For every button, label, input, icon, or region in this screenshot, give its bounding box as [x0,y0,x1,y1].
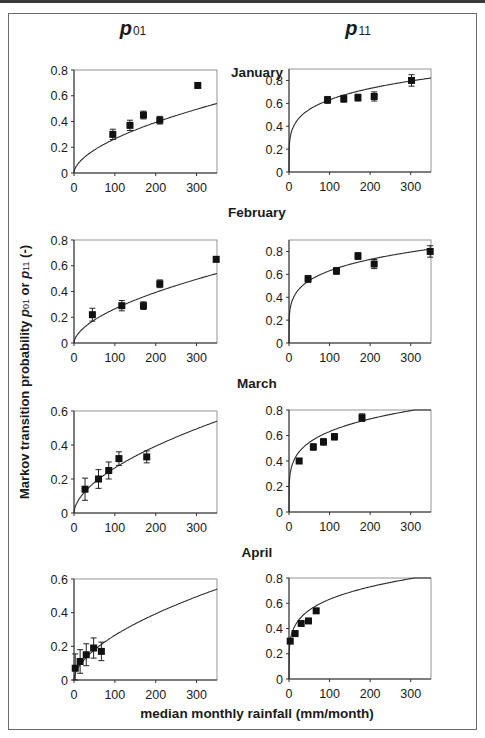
data-point [90,645,97,652]
x-tick-label: 100 [104,688,125,702]
y-tick-label: 0.6 [266,597,283,611]
plot-area [289,69,431,172]
y-tick-label: 0.4 [266,622,283,636]
y-tick-label: 0.2 [266,314,283,328]
x-tick-label: 200 [360,351,381,365]
y-tick-label: 0.4 [51,115,68,129]
x-tick-label: 100 [319,520,340,534]
data-point [98,648,105,655]
x-tick-label: 200 [145,521,166,535]
column-title-p11: p11 [344,17,371,39]
x-tick-label: 0 [286,687,293,701]
fitted-curve [289,578,431,679]
plot-area [74,240,217,343]
fitted-curve [289,249,431,343]
plot-january-p01: 00.20.40.60.80100200300 [51,64,217,196]
y-tick-label: 0.8 [51,64,68,78]
x-tick-label: 0 [286,180,293,194]
x-tick-label: 200 [145,688,166,702]
data-point [296,458,303,465]
x-tick-label: 100 [319,180,340,194]
data-point [156,117,163,124]
data-point [371,93,378,100]
x-tick-label: 200 [145,181,166,195]
x-tick-label: 100 [104,181,125,195]
x-tick-label: 300 [400,180,421,194]
plot-area [74,579,217,680]
y-tick-label: 0.2 [266,480,283,494]
x-tick-label: 200 [360,180,381,194]
y-tick-label: 0.4 [51,439,68,453]
data-point [298,620,305,627]
fitted-curve [289,78,431,172]
data-point [72,665,79,672]
data-point [354,94,361,101]
x-tick-label: 300 [186,521,207,535]
data-point [140,302,147,309]
x-tick-label: 300 [186,181,207,195]
x-tick-label: 0 [286,351,293,365]
data-point [140,112,147,119]
x-tick-label: 300 [400,520,421,534]
y-tick-label: 0.6 [266,97,283,111]
data-point [126,122,133,129]
fitted-curve [289,410,431,512]
y-tick-label: 0.4 [266,120,283,134]
data-point [320,438,327,445]
y-tick-label: 0 [61,507,68,521]
y-tick-label: 0 [276,673,283,687]
data-point [331,433,338,440]
plot-january-p11: 00.20.40.60.80100200300 [266,69,431,194]
y-tick-label: 0.2 [51,473,68,487]
x-tick-label: 300 [186,351,207,365]
figure-canvas: p01 p11 Markov transition probability p0… [0,0,485,738]
data-point [324,96,331,103]
x-tick-label: 300 [400,687,421,701]
y-tick-label: 0.8 [266,245,283,259]
data-point [143,453,150,460]
x-tick-label: 100 [104,351,125,365]
x-tick-label: 100 [319,351,340,365]
month-title-march: March [237,376,277,391]
column-title-p01: p01 [119,17,147,39]
y-tick-label: 0.6 [51,89,68,103]
data-point [118,302,125,309]
plot-area [74,411,217,513]
data-point [313,607,320,614]
x-tick-label: 300 [400,351,421,365]
data-point [359,414,366,421]
x-tick-label: 0 [71,181,78,195]
x-tick-label: 100 [104,521,125,535]
panels-group: January00.20.40.60.8010020030000.20.40.6… [51,64,434,703]
y-tick-label: 0.2 [51,141,68,155]
y-tick-label: 0.6 [266,268,283,282]
y-tick-label: 0.8 [266,404,283,418]
data-point [427,248,434,255]
data-point [115,455,122,462]
data-point [408,77,415,84]
y-tick-label: 0.6 [51,405,68,419]
y-tick-label: 0 [61,167,68,181]
data-point [333,267,340,274]
data-point [305,275,312,282]
y-tick-label: 0.2 [266,647,283,661]
data-point [109,131,116,138]
y-tick-label: 0.8 [266,572,283,586]
y-tick-label: 0.4 [51,285,68,299]
y-tick-label: 0.4 [266,455,283,469]
x-tick-label: 200 [360,520,381,534]
plot-march-p01: 00.20.40.60100200300 [51,405,217,536]
y-axis-label: Markov transition probability p01 or p11… [17,245,32,499]
y-tick-label: 0.4 [266,291,283,305]
y-tick-label: 0.6 [266,429,283,443]
y-tick-label: 0.8 [51,234,68,248]
fitted-curve [74,589,217,680]
data-point [371,261,378,268]
y-tick-label: 0 [276,337,283,351]
data-point [82,486,89,493]
data-point [105,467,112,474]
y-tick-label: 0.2 [51,640,68,654]
plot-area [289,410,431,512]
x-tick-label: 300 [186,688,207,702]
y-tick-label: 0 [276,166,283,180]
